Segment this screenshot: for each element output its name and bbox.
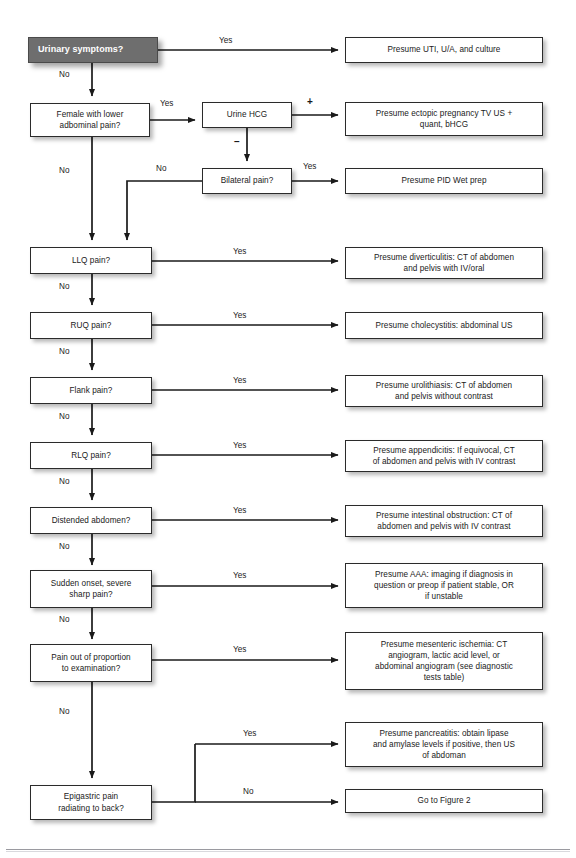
node-go-to-figure-2-label: Go to Figure 2 [417,795,470,806]
edge-label-no-distended: No [59,542,69,552]
node-presume-aaa-label: Presume AAA: imaging if diagnosis in que… [374,569,514,603]
edge-label-yes-urinary: Yes [219,36,232,46]
node-flank-pain[interactable]: Flank pain? [30,377,152,404]
edge-label-yes-ruq: Yes [233,311,246,321]
edge-label-no-llq: No [59,282,69,292]
node-ruq-pain[interactable]: RUQ pain? [30,312,152,339]
node-presume-pid[interactable]: Presume PID Wet prep [345,168,543,194]
node-bilateral-pain-label: Bilateral pain? [221,175,274,186]
edge-label-hcg-positive: + [307,97,313,107]
node-presume-pancreatitis-label: Presume pancreatitis: obtain lipase and … [373,728,515,762]
node-presume-pancreatitis[interactable]: Presume pancreatitis: obtain lipase and … [345,722,543,767]
edge-label-yes-llq: Yes [233,247,246,257]
node-presume-urolithiasis-label: Presume urolithiasis: CT of abdomen and … [376,380,512,402]
node-presume-cholecystitis-label: Presume cholecystitis: abdominal US [376,320,513,331]
node-urinary-symptoms-label: Urinary symptoms? [38,44,123,55]
node-epigastric-pain[interactable]: Epigastric pain radiating to back? [30,785,152,820]
edge-label-no-flank: No [59,412,69,422]
node-go-to-figure-2[interactable]: Go to Figure 2 [345,789,543,813]
node-female-lower-abdominal-pain[interactable]: Female with lower adbominal pain? [30,103,150,137]
node-rlq-pain[interactable]: RLQ pain? [30,442,152,469]
node-presume-aaa[interactable]: Presume AAA: imaging if diagnosis in que… [345,563,543,608]
edge-label-no-rlq: No [59,477,69,487]
node-llq-pain-label: LLQ pain? [72,255,110,266]
node-ruq-pain-label: RUQ pain? [71,320,112,331]
node-presume-mesenteric-ischemia-label: Presume mesenteric ischemia: CT angiogra… [375,639,513,684]
node-presume-cholecystitis[interactable]: Presume cholecystitis: abdominal US [345,312,543,339]
node-urine-hcg[interactable]: Urine HCG [202,102,292,128]
edge-label-yes-female: Yes [160,99,173,109]
node-female-lower-abdominal-pain-label: Female with lower adbominal pain? [57,109,124,131]
node-presume-intestinal-obstruction-label: Presume intestinal obstruction: CT of ab… [376,510,512,532]
node-urine-hcg-label: Urine HCG [227,109,267,120]
node-presume-ectopic-pregnancy[interactable]: Presume ectopic pregnancy TV US + quant,… [345,102,543,136]
node-presume-urolithiasis[interactable]: Presume urolithiasis: CT of abdomen and … [345,375,543,407]
node-epigastric-pain-label: Epigastric pain radiating to back? [58,791,124,813]
node-presume-uti-label: Presume UTI, U/A, and culture [388,44,501,55]
edge-label-hcg-negative: – [234,137,240,147]
node-urinary-symptoms[interactable]: Urinary symptoms? [28,37,158,63]
node-distended-abdomen[interactable]: Distended abdomen? [30,507,152,534]
edge-label-no-sudden: No [59,615,69,625]
node-pain-out-of-proportion[interactable]: Pain out of proportion to examination? [30,644,152,682]
node-sudden-onset-sharp-pain[interactable]: Sudden onset, severe sharp pain? [30,570,152,608]
footer-rule-shadow [6,851,570,852]
node-rlq-pain-label: RLQ pain? [71,450,111,461]
edge-label-no-ruq: No [59,347,69,357]
node-presume-intestinal-obstruction[interactable]: Presume intestinal obstruction: CT of ab… [345,505,543,537]
node-presume-pid-label: Presume PID Wet prep [401,175,486,186]
node-flank-pain-label: Flank pain? [70,385,113,396]
edge-label-no-bilateral: No [156,164,166,174]
edge-label-yes-bilateral: Yes [303,162,316,172]
edge-label-yes-flank: Yes [233,376,246,386]
node-presume-ectopic-pregnancy-label: Presume ectopic pregnancy TV US + quant,… [376,108,512,130]
node-presume-appendicitis[interactable]: Presume appendicitis: If equivocal, CT o… [345,440,543,472]
node-presume-uti[interactable]: Presume UTI, U/A, and culture [345,37,543,63]
node-llq-pain[interactable]: LLQ pain? [30,247,152,274]
edge-label-no-urinary: No [59,70,69,80]
node-presume-mesenteric-ischemia[interactable]: Presume mesenteric ischemia: CT angiogra… [345,632,543,690]
edge-label-no-proportion: No [59,707,69,717]
node-presume-diverticulitis-label: Presume diverticulitis: CT of abdomen an… [374,252,514,274]
edge-label-yes-proportion: Yes [233,645,246,655]
edge-label-yes-epigastric: Yes [243,729,256,739]
edge-label-yes-rlq: Yes [233,441,246,451]
node-distended-abdomen-label: Distended abdomen? [52,515,131,526]
node-presume-appendicitis-label: Presume appendicitis: If equivocal, CT o… [373,445,516,467]
node-sudden-onset-sharp-pain-label: Sudden onset, severe sharp pain? [51,578,132,600]
footer-rule [6,849,570,850]
flowchart-canvas: Urinary symptoms? Presume UTI, U/A, and … [0,0,576,858]
edge-label-no-epigastric: No [243,787,253,797]
node-pain-out-of-proportion-label: Pain out of proportion to examination? [51,652,130,674]
edge-label-no-female: No [59,166,69,176]
node-bilateral-pain[interactable]: Bilateral pain? [202,168,292,194]
edge-label-yes-distended: Yes [233,506,246,516]
edge-label-yes-sudden: Yes [233,571,246,581]
node-presume-diverticulitis[interactable]: Presume diverticulitis: CT of abdomen an… [345,247,543,279]
